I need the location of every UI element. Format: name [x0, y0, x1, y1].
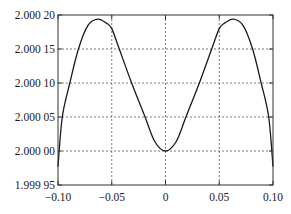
y-tick-label: 1.999 95 — [15, 179, 56, 191]
y-tick-label: 2.000 00 — [15, 145, 56, 157]
y-tick-label: 2.000 05 — [15, 111, 56, 123]
x-tick-label: −0.10 — [45, 191, 72, 203]
x-axis-tick-labels: −0.10−0.0500.050.10 — [45, 191, 284, 203]
line-chart: −0.10−0.0500.050.10 1.999 952.000 002.00… — [0, 0, 291, 214]
x-tick-label: 0.05 — [209, 191, 229, 203]
y-tick-label: 2.000 20 — [15, 9, 56, 21]
y-axis-tick-labels: 1.999 952.000 002.000 052.000 102.000 15… — [15, 9, 56, 191]
x-tick-label: −0.05 — [98, 191, 125, 203]
x-tick-label: 0.10 — [263, 191, 283, 203]
y-tick-label: 2.000 15 — [15, 43, 56, 55]
x-tick-label: 0 — [163, 191, 169, 203]
y-tick-label: 2.000 10 — [15, 77, 56, 89]
grid-lines — [58, 15, 273, 185]
